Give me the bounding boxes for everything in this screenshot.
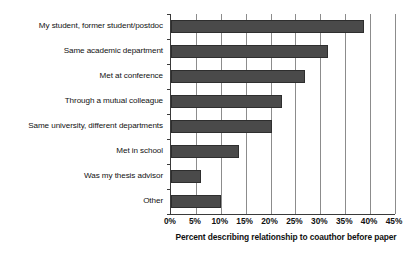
category-label: My student, former student/postdoc — [0, 14, 168, 39]
bar-row — [171, 64, 395, 89]
x-tick-label: 0% — [164, 216, 176, 226]
x-tick-label: 20% — [261, 216, 278, 226]
bar-row — [171, 164, 395, 189]
x-tick-label: 15% — [236, 216, 253, 226]
bar[interactable] — [171, 45, 328, 58]
bar-row — [171, 89, 395, 114]
bar-chart: My student, former student/postdoc Same … — [0, 0, 416, 264]
x-tick-label: 35% — [336, 216, 353, 226]
bar[interactable] — [171, 145, 239, 158]
x-axis-title: Percent describing relationship to coaut… — [170, 232, 402, 242]
bar-row — [171, 189, 395, 214]
axis-tick — [167, 214, 171, 215]
x-tick-label: 45% — [386, 216, 403, 226]
x-tick-label: 5% — [189, 216, 201, 226]
bar[interactable] — [171, 195, 221, 208]
x-tick-label: 10% — [211, 216, 228, 226]
bar-row — [171, 14, 395, 39]
x-tick-label: 30% — [311, 216, 328, 226]
category-label: Met in school — [0, 139, 168, 164]
category-label: Same university, different departments — [0, 114, 168, 139]
bar[interactable] — [171, 95, 282, 108]
bar[interactable] — [171, 70, 305, 83]
bar[interactable] — [171, 170, 201, 183]
x-axis-tick-labels: 0%5%10%15%20%25%30%35%40%45% — [170, 216, 394, 228]
bar-row — [171, 39, 395, 64]
category-axis-labels: My student, former student/postdoc Same … — [0, 14, 168, 214]
category-label: Same academic department — [0, 39, 168, 64]
category-label: Was my thesis advisor — [0, 164, 168, 189]
x-tick-label: 40% — [361, 216, 378, 226]
x-tick-label: 25% — [286, 216, 303, 226]
bar-row — [171, 114, 395, 139]
category-label: Other — [0, 189, 168, 214]
bar-row — [171, 139, 395, 164]
bar[interactable] — [171, 20, 364, 33]
bars-layer — [171, 14, 395, 214]
category-label: Met at conference — [0, 64, 168, 89]
gridline — [395, 14, 396, 214]
category-label: Through a mutual colleague — [0, 89, 168, 114]
plot-area — [170, 14, 395, 215]
bar[interactable] — [171, 120, 272, 133]
